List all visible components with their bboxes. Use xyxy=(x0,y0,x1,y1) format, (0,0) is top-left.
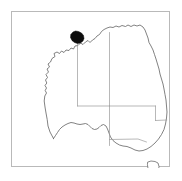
islands-group xyxy=(148,161,160,168)
map-canvas xyxy=(12,12,171,168)
mainland-group xyxy=(44,25,167,151)
tasmania-coastline xyxy=(148,161,160,168)
australia-distribution-map xyxy=(0,0,182,181)
australia-mainland-coastline xyxy=(44,25,167,151)
distribution-group xyxy=(71,31,85,44)
state-border-qld-nsw xyxy=(156,120,167,121)
distribution-patch-kimberley xyxy=(71,31,85,44)
map-frame-border xyxy=(11,11,170,167)
